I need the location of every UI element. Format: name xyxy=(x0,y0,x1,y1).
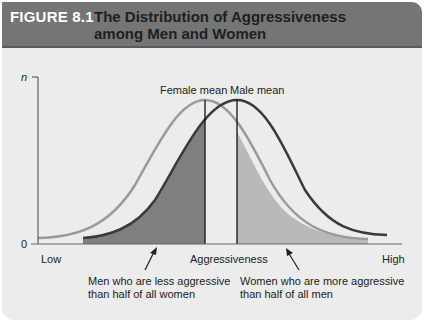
shaded-region-men-less-aggressive xyxy=(83,118,205,244)
y-axis-top-label: n xyxy=(21,71,27,83)
x-axis-title: Aggressiveness xyxy=(190,253,268,265)
arrow-right xyxy=(288,252,299,270)
figure: FIGURE 8.1 The Distribution of Aggressiv… xyxy=(0,0,424,325)
y-axis-zero-label: 0 xyxy=(21,238,27,250)
x-axis-low-label: Low xyxy=(41,253,61,265)
female-mean-label: Female mean xyxy=(160,84,227,96)
annotation-women-more-aggressive: Women who are more aggressive than half … xyxy=(240,275,404,301)
male-mean-label: Male mean xyxy=(230,84,284,96)
arrow-left-head-icon xyxy=(150,247,157,255)
annotation-men-less-aggressive: Men who are less aggressive than half of… xyxy=(88,275,230,301)
x-axis-high-label: High xyxy=(382,253,405,265)
